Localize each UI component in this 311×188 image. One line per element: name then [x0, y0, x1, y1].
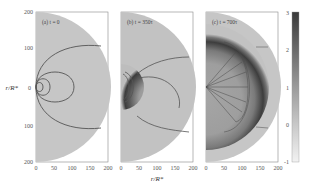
- svg-text:-1: -1: [284, 159, 289, 165]
- svg-text:100: 100: [24, 123, 33, 129]
- panel-a-label: (a) t = 0: [42, 19, 60, 26]
- y-axis-label: r/R*: [6, 84, 19, 92]
- panel-c-label: (c) t = 700τ: [212, 19, 238, 26]
- panel-c: (c) t = 700τ: [206, 12, 281, 162]
- svg-text:0: 0: [120, 165, 123, 171]
- x-axis-c: 0 50 100 150 200: [205, 165, 283, 171]
- x-axis-b: 0 50 100 150 200: [120, 165, 198, 171]
- svg-text:200: 200: [24, 9, 33, 15]
- colorbar: 3 2 1 0 -1: [284, 10, 299, 165]
- panel-b-label: (b) t = 350τ: [127, 19, 153, 26]
- svg-text:0: 0: [205, 165, 208, 171]
- panel-b: (b) t = 350τ: [121, 12, 196, 162]
- svg-text:1: 1: [286, 85, 289, 91]
- svg-text:100: 100: [24, 45, 33, 51]
- svg-text:200: 200: [104, 165, 113, 171]
- panel-a: (a) t = 0: [36, 12, 111, 162]
- svg-text:50: 50: [136, 165, 142, 171]
- x-axis-label: r/R*: [151, 175, 164, 183]
- svg-text:100: 100: [153, 165, 162, 171]
- svg-text:200: 200: [189, 165, 198, 171]
- svg-text:0: 0: [35, 165, 38, 171]
- svg-text:3: 3: [286, 10, 289, 16]
- svg-text:50: 50: [221, 165, 227, 171]
- svg-text:200: 200: [274, 165, 283, 171]
- svg-text:2: 2: [286, 47, 289, 53]
- svg-text:100: 100: [238, 165, 247, 171]
- figure: (a) t = 0 (b) t = 350τ (c) t = 700τ: [0, 0, 311, 188]
- svg-text:200: 200: [24, 159, 33, 165]
- svg-text:0: 0: [28, 85, 31, 91]
- svg-text:150: 150: [171, 165, 180, 171]
- svg-text:100: 100: [68, 165, 77, 171]
- svg-text:150: 150: [86, 165, 95, 171]
- svg-text:150: 150: [256, 165, 265, 171]
- x-axis-a: 0 50 100 150 200: [35, 165, 113, 171]
- svg-text:0: 0: [286, 122, 289, 128]
- svg-text:50: 50: [51, 165, 57, 171]
- y-axis: 200 100 100 200 r/R* 0: [6, 9, 33, 165]
